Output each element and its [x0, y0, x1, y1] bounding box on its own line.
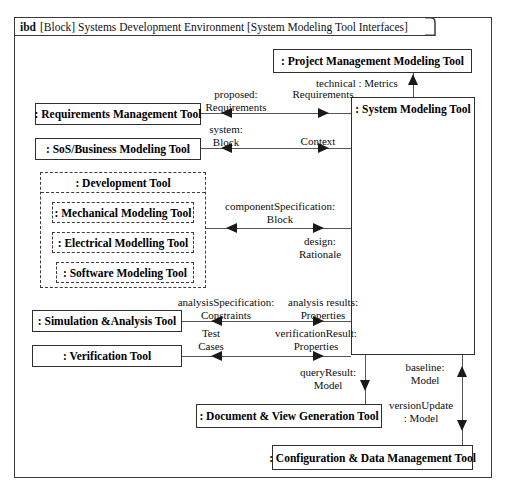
block-label: : Requirements Management Tool: [35, 108, 202, 120]
arrow-version-update: [457, 420, 467, 431]
diagram-kind-keyword: ibd: [20, 21, 36, 33]
block-verification-tool[interactable]: : Verification Tool: [32, 345, 182, 367]
block-label: : Electrical Modelling Tool: [58, 237, 189, 249]
label-proposed-requirements: proposed: Requirements: [196, 88, 276, 113]
diagram-header-tab: ibd [Block] Systems Development Environm…: [14, 17, 425, 36]
label-analysis-results: analysis results: Properties: [278, 296, 368, 321]
block-system-modeling-tool[interactable]: : System Modeling Tool: [351, 97, 475, 355]
block-label: : Mechanical Modeling Tool: [54, 207, 191, 219]
label-verification-result: verificationResult: Properties: [261, 327, 371, 352]
block-label: : Verification Tool: [63, 350, 151, 362]
arrow-technical-metrics: [408, 74, 418, 85]
arrow-test-cases: [211, 351, 222, 361]
label-design-rationale: design: Rationale: [285, 235, 355, 260]
label-system-block: system: Block: [196, 123, 256, 148]
block-simulation-analysis-tool[interactable]: : Simulation &Analysis Tool: [32, 310, 182, 332]
label-requirements: Requirements: [283, 88, 363, 101]
label-component-specification: componentSpecification: Block: [210, 200, 350, 225]
label-baseline-model: baseline: Model: [393, 361, 457, 386]
arrow-query-result: [360, 380, 370, 391]
label-analysis-specification: analysisSpecification: Constraints: [166, 296, 286, 321]
block-label: : Project Management Modeling Tool: [281, 55, 464, 67]
arrow-verification-result: [313, 351, 324, 361]
block-label: : Software Modeling Tool: [63, 267, 187, 279]
block-label: : Configuration & Data Management Tool: [269, 452, 476, 464]
block-label: : System Modeling Tool: [355, 103, 470, 115]
label-version-update: versionUpdate : Model: [385, 399, 457, 424]
block-label: : Simulation &Analysis Tool: [38, 315, 176, 327]
connector-verification-line: [182, 356, 351, 357]
block-mechanical-modeling-tool[interactable]: : Mechanical Modeling Tool: [52, 202, 194, 223]
block-requirements-management-tool[interactable]: : Requirements Management Tool: [35, 103, 201, 125]
diagram-title: [Block] Systems Development Environment …: [40, 21, 408, 33]
block-electrical-modelling-tool[interactable]: : Electrical Modelling Tool: [52, 232, 194, 253]
block-software-modeling-tool[interactable]: : Software Modeling Tool: [56, 262, 194, 283]
header-tab-corner-icon: [425, 17, 436, 36]
arrow-requirements: [318, 108, 329, 118]
label-technical-metrics: technical : Metrics: [316, 77, 398, 90]
block-label: : Document & View Generation Tool: [199, 410, 378, 422]
diagram-canvas: ibd [Block] Systems Development Environm…: [0, 0, 510, 501]
block-document-view-generation-tool[interactable]: : Document & View Generation Tool: [196, 404, 382, 428]
block-project-management-modeling-tool[interactable]: : Project Management Modeling Tool: [273, 49, 472, 73]
block-sos-business-modeling-tool[interactable]: : SoS/Business Modeling Tool: [35, 138, 201, 160]
connector-analysis-line: [182, 321, 351, 322]
block-label: : Development Tool: [41, 173, 205, 193]
arrow-baseline-model: [457, 366, 467, 377]
label-context: Context: [283, 135, 353, 148]
block-label: : SoS/Business Modeling Tool: [46, 143, 190, 155]
label-query-result: queryResult: Model: [295, 366, 361, 391]
block-configuration-data-management-tool[interactable]: : Configuration & Data Management Tool: [272, 445, 473, 470]
label-test-cases: Test Cases: [186, 327, 236, 352]
